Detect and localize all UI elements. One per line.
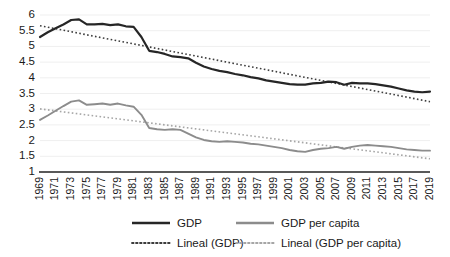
x-tick-label: 2015: [392, 177, 404, 201]
y-tick-label: 2: [29, 134, 35, 146]
trendline-lineal-gdp-per-capita: [40, 109, 430, 159]
y-tick-label: 3: [29, 102, 35, 114]
y-tick-label: 5: [29, 39, 35, 51]
x-tick-label: 1999: [267, 177, 279, 201]
x-tick-label: 1991: [204, 177, 216, 201]
x-tick-label: 2017: [407, 177, 419, 201]
x-tick-label: 2011: [360, 177, 372, 200]
trendline-lineal-gdp: [40, 26, 430, 102]
x-tick-label: 1977: [95, 177, 107, 201]
y-tick-label: 1: [29, 165, 35, 177]
y-tick-label: 3.5: [19, 87, 35, 99]
x-tick-label: 1981: [126, 177, 138, 201]
y-tick-label: 4: [29, 71, 36, 83]
data-series-group: [40, 19, 430, 152]
y-tick-label: 1.5: [19, 149, 35, 161]
x-tick-label: 1975: [80, 177, 92, 201]
y-axis-tick-labels: 11.522.533.544.555.56: [19, 8, 36, 177]
x-tick-label: 1983: [142, 177, 154, 201]
x-tick-label: 1973: [64, 177, 76, 201]
x-tick-label: 1971: [48, 177, 60, 201]
gdp-trend-chart: 11.522.533.544.555.56 196919711973197519…: [0, 0, 450, 257]
x-tick-label: 1979: [111, 177, 123, 201]
x-axis-tick-labels: 1969197119731975197719791981198319851987…: [33, 177, 435, 201]
x-tick-label: 1989: [189, 177, 201, 201]
x-tick-label: 1985: [158, 177, 170, 201]
y-gridlines: [40, 15, 430, 156]
x-tick-label: 1993: [220, 177, 232, 201]
trendline-group: [40, 26, 430, 159]
legend-label: Lineal (GDP per capita): [281, 237, 401, 249]
chart-legend: GDPGDP per capitaLineal (GDP)Lineal (GDP…: [132, 217, 401, 249]
x-tick-label: 2019: [423, 177, 435, 201]
series-line-gdp-per-capita: [40, 100, 430, 151]
y-tick-label: 4.5: [19, 55, 35, 67]
x-tick-label: 2007: [329, 177, 341, 201]
x-tick-label: 1995: [236, 177, 248, 201]
x-tick-label: 1969: [33, 177, 45, 201]
x-tick-label: 1987: [173, 177, 185, 201]
x-tick-label: 2001: [282, 177, 294, 201]
x-tick-label: 2013: [376, 177, 388, 201]
y-tick-label: 6: [29, 8, 35, 20]
chart-canvas: 11.522.533.544.555.56 196919711973197519…: [0, 0, 450, 257]
legend-label: GDP per capita: [281, 217, 360, 229]
x-tick-label: 2003: [298, 177, 310, 201]
y-tick-label: 2.5: [19, 118, 35, 130]
y-tick-label: 5.5: [19, 24, 35, 36]
legend-label: Lineal (GDP): [177, 237, 244, 249]
legend-label: GDP: [177, 217, 202, 229]
x-tick-label: 1997: [251, 177, 263, 201]
x-tick-label: 2009: [345, 177, 357, 201]
x-tick-label: 2005: [314, 177, 326, 201]
